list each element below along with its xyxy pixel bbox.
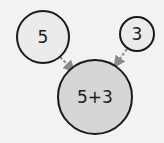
dashed-arrow-icon xyxy=(117,49,127,63)
diagram-canvas: 5 3 5+3 xyxy=(0,0,164,143)
node-three-label: 3 xyxy=(132,24,143,44)
node-three: 3 xyxy=(120,17,154,51)
node-five: 5 xyxy=(17,11,69,63)
edge-five-to-sum xyxy=(60,57,71,68)
node-sum-label: 5+3 xyxy=(77,87,113,107)
node-sum: 5+3 xyxy=(58,60,132,134)
edge-three-to-sum xyxy=(117,49,127,63)
node-five-label: 5 xyxy=(38,27,49,47)
dashed-arrow-icon xyxy=(60,57,71,68)
